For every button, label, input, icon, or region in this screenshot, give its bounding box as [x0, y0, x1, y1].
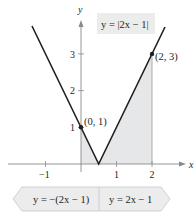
x-tick-label: 2 [150, 169, 155, 180]
y-tick-label: 1 [70, 122, 75, 133]
x-tick-label: −1 [39, 169, 50, 180]
absolute-value-graph: x y −1 1 2 1 2 3 (0, 1) (2, 3) y = |2x −… [0, 0, 195, 218]
point-0-1 [79, 125, 83, 129]
point-0-1-label: (0, 1) [84, 116, 107, 128]
shaded-region [81, 54, 152, 164]
function-label: y = |2x − 1| [101, 19, 149, 30]
x-axis-arrow-icon [179, 162, 186, 167]
piece-left-label: y = −(2x − 1) [33, 194, 90, 206]
point-2-3 [150, 52, 154, 56]
x-tick-label: 1 [114, 169, 119, 180]
y-axis-arrow-icon [79, 20, 84, 27]
y-axis-label: y [77, 4, 83, 15]
y-tick-label: 2 [70, 85, 75, 96]
x-axis-label: x [188, 159, 194, 170]
point-2-3-label: (2, 3) [155, 51, 178, 63]
y-tick-label: 3 [70, 49, 75, 60]
piece-right-label: y = 2x − 1 [109, 194, 152, 205]
